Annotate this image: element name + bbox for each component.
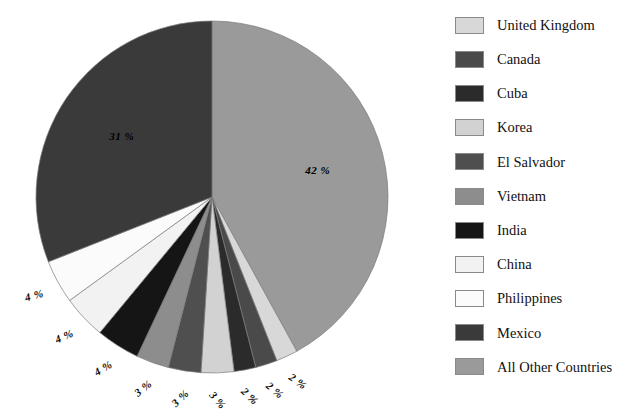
legend-item[interactable]: Korea — [455, 111, 620, 145]
legend-color-swatch — [455, 51, 484, 68]
pie-value-label: 31 % — [109, 130, 134, 142]
legend-item[interactable]: Vietnam — [455, 179, 620, 213]
legend-color-swatch — [455, 153, 484, 170]
legend-item-label: Mexico — [497, 326, 541, 341]
legend-item-label: Philippines — [497, 291, 562, 306]
chart-legend: United KingdomCanadaCubaKoreaEl Salvador… — [455, 8, 620, 386]
legend-color-swatch — [455, 119, 484, 136]
legend-item-label: Canada — [497, 52, 540, 67]
legend-item[interactable]: All Other Countries — [455, 350, 620, 384]
legend-item[interactable]: United Kingdom — [455, 8, 620, 42]
legend-item[interactable]: Mexico — [455, 316, 620, 350]
legend-item[interactable]: El Salvador — [455, 145, 620, 179]
legend-item[interactable]: India — [455, 213, 620, 247]
legend-item[interactable]: China — [455, 247, 620, 281]
legend-item-label: All Other Countries — [497, 360, 612, 375]
legend-color-swatch — [455, 256, 484, 273]
legend-item[interactable]: Cuba — [455, 76, 620, 110]
pie-slice-group — [36, 21, 388, 373]
legend-item-label: Vietnam — [497, 189, 546, 204]
pie-value-label: 3 % — [208, 389, 230, 411]
legend-color-swatch — [455, 324, 484, 341]
legend-color-swatch — [455, 290, 484, 307]
pie-value-label: 42 % — [305, 164, 330, 176]
legend-color-swatch — [455, 188, 484, 205]
legend-item-label: El Salvador — [497, 155, 565, 170]
legend-color-swatch — [455, 85, 484, 102]
legend-color-swatch — [455, 358, 484, 375]
legend-item[interactable]: Canada — [455, 42, 620, 76]
legend-item-label: India — [497, 223, 527, 238]
legend-item-label: Korea — [497, 120, 532, 135]
legend-item-label: Cuba — [497, 86, 528, 101]
legend-color-swatch — [455, 17, 484, 34]
pie-plot-area: 42 %2 %2 %2 %3 %3 %3 %4 %4 %4 %31 % — [0, 0, 450, 390]
legend-item-label: China — [497, 257, 532, 272]
legend-item-label: United Kingdom — [497, 18, 595, 33]
legend-item[interactable]: Philippines — [455, 282, 620, 316]
legend-color-swatch — [455, 222, 484, 239]
